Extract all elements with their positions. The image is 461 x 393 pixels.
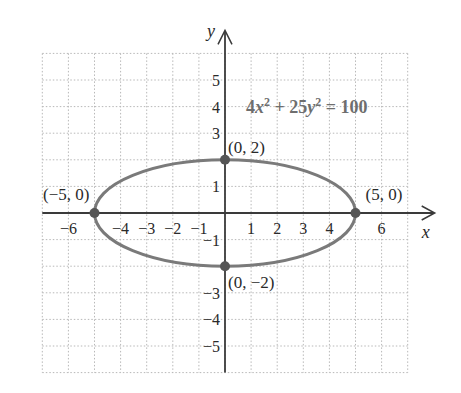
x-axis-label: x: [421, 222, 430, 242]
y-tick-label: 5: [212, 72, 220, 89]
point-label: (0, 2): [228, 138, 265, 157]
x-tick-label: −3: [138, 220, 155, 237]
y-axis-label: y: [205, 21, 215, 41]
equation-label: 4x2 + 25y2 = 100: [246, 95, 368, 117]
point-marker: [351, 208, 361, 218]
x-tick-label: 4: [325, 220, 333, 237]
x-tick-label: 2: [273, 220, 281, 237]
x-tick-label: 1: [247, 220, 255, 237]
equation-term: + 25: [270, 97, 307, 117]
x-tick-label: −6: [60, 220, 77, 237]
points-layer: (−5, 0)(5, 0)(0, 2)(0, −2): [43, 138, 402, 292]
x-tick-label: −2: [164, 220, 181, 237]
x-tick-label: 3: [299, 220, 307, 237]
y-tick-label: 3: [212, 125, 220, 142]
x-tick-label: −4: [112, 220, 129, 237]
x-tick-label: 6: [378, 220, 386, 237]
y-tick-label: −5: [203, 338, 220, 355]
point-label: (−5, 0): [43, 185, 89, 204]
point-label: (5, 0): [366, 185, 403, 204]
equation-term: 4: [246, 97, 255, 117]
point-marker: [90, 208, 100, 218]
y-tick-label: 4: [212, 99, 220, 116]
point-marker: [220, 261, 230, 271]
ellipse-graph: xy −6−4−3−2−1123465431−1−3−4−5 (−5, 0)(5…: [0, 0, 461, 393]
y-tick-label: −3: [203, 285, 220, 302]
point-label: (0, −2): [228, 273, 274, 292]
equation-term: = 100: [321, 97, 367, 117]
y-tick-label: 1: [212, 178, 220, 195]
equation-variable: x: [254, 97, 264, 117]
y-tick-label: −1: [203, 232, 220, 249]
y-tick-label: −4: [203, 311, 220, 328]
